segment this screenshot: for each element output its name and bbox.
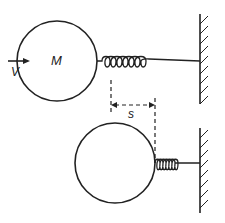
displacement-label: s — [128, 107, 134, 121]
spring-compressed — [155, 159, 200, 170]
dimension-arrowhead-left-icon — [111, 102, 117, 108]
dimension-arrowhead-right-icon — [149, 102, 155, 108]
spring-initial — [97, 57, 200, 68]
wall-hatching-compressed — [200, 130, 208, 208]
mass-label: M — [51, 53, 62, 68]
diagram-canvas: M V s — [0, 0, 225, 223]
mass-ball-compressed — [75, 123, 155, 203]
velocity-arrowhead-icon — [23, 58, 30, 64]
wall-hatching-initial — [200, 16, 208, 104]
velocity-label: V — [11, 65, 20, 79]
